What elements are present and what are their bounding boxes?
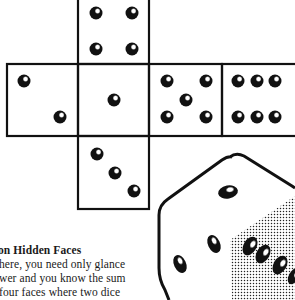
net-face-top (78, 0, 149, 64)
die-3d (159, 154, 295, 300)
net-face-left (7, 64, 78, 136)
caption-line-2: wer and you know the sum (0, 272, 126, 285)
caption-line-1: here, you need only glance (0, 258, 125, 271)
caption-heading: on Hidden Faces (0, 244, 81, 257)
caption-line-3: four faces where two dice (0, 286, 120, 299)
die-net (7, 0, 295, 209)
